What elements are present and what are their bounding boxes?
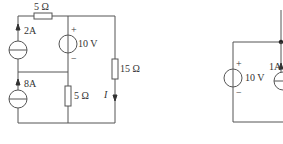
label-resistor-mid: 5 Ω <box>74 91 89 101</box>
resistor-right-15ohm <box>112 59 118 79</box>
label-vsrc-plus: + <box>71 25 77 35</box>
label-current-i: I <box>104 90 107 100</box>
arrow-up-icon <box>16 24 20 30</box>
label-resistor-top: 5 Ω <box>34 2 49 12</box>
label-vsrc-right-10v: 10 V <box>245 73 265 83</box>
resistor-mid-5ohm <box>65 86 71 106</box>
label-vsrc-right-plus: + <box>236 59 242 69</box>
circuit-canvas <box>0 0 283 144</box>
label-current-8a: 8A <box>24 79 36 89</box>
label-resistor-right: 15 Ω <box>120 64 140 74</box>
resistor-top-5ohm <box>34 13 52 19</box>
label-vsrc-minus: − <box>71 54 77 64</box>
label-current-2a: 2A <box>24 26 36 36</box>
label-vsrc-10v: 10 V <box>78 39 98 49</box>
label-current-1a: 1A <box>269 62 281 72</box>
arrow-down-icon <box>113 95 117 101</box>
arrow-up-icon <box>16 79 20 85</box>
label-vsrc-right-minus: − <box>236 88 242 98</box>
